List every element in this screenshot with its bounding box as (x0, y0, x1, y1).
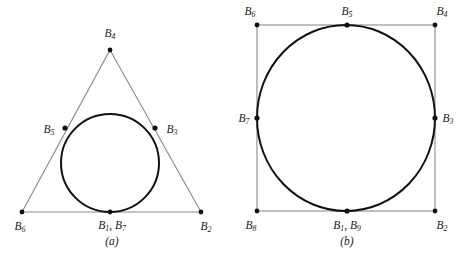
point-b4 (108, 48, 113, 53)
label-b5-panel-b: B5 (342, 6, 353, 18)
point-b1-b7 (108, 210, 113, 215)
figure-canvas (0, 0, 465, 259)
label-b4-panel-a: B4 (105, 28, 116, 40)
label-b5-panel-a: B5 (44, 124, 55, 136)
label-b6-panel-a: B6 (15, 221, 26, 233)
point-b1-b9 (344, 208, 349, 213)
point-b6 (255, 23, 260, 28)
panel-b-vertex-dots (254, 22, 437, 213)
label-b1-b7-panel-a: B1, B7 (98, 220, 126, 232)
label-b8-panel-b: B8 (246, 220, 257, 232)
label-b3-panel-b: B3 (443, 113, 454, 125)
point-b8 (255, 209, 260, 214)
label-b7-panel-b: B7 (239, 113, 250, 125)
label-b1-b9-panel-b: B1, B9 (333, 220, 361, 232)
caption-panel-b: (b) (340, 235, 353, 247)
inscribed-circle-a (61, 114, 159, 212)
point-b3 (152, 125, 157, 130)
panel-b-geometry (254, 22, 437, 213)
point-b5 (62, 125, 67, 130)
point-b4 (433, 23, 438, 28)
label-b6-panel-b: B6 (245, 6, 256, 18)
point-b2 (433, 209, 438, 214)
point-b5 (344, 22, 349, 27)
label-b2-panel-a: B2 (201, 221, 212, 233)
label-b4-panel-b: B4 (437, 6, 448, 18)
inscribed-circle-b (257, 25, 435, 211)
label-b2-panel-b: B2 (437, 220, 448, 232)
caption-panel-a: (a) (105, 235, 118, 247)
point-b7 (254, 115, 259, 120)
point-b2 (199, 210, 204, 215)
figure-root: B4 B5 B3 B6 B2 B1, B7 (a) B6 B5 B4 B7 B3… (0, 0, 465, 259)
label-b3-panel-a: B3 (167, 124, 178, 136)
point-b6 (20, 210, 25, 215)
point-b3 (432, 115, 437, 120)
